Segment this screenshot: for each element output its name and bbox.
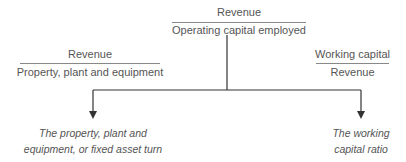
right-result-label: The working capital ratio: [322, 125, 400, 157]
left-result-label: The property, plant and equipment, or fi…: [18, 125, 168, 157]
arrow-down-left-icon: [89, 111, 97, 119]
arrow-down-right-icon: [357, 111, 365, 119]
